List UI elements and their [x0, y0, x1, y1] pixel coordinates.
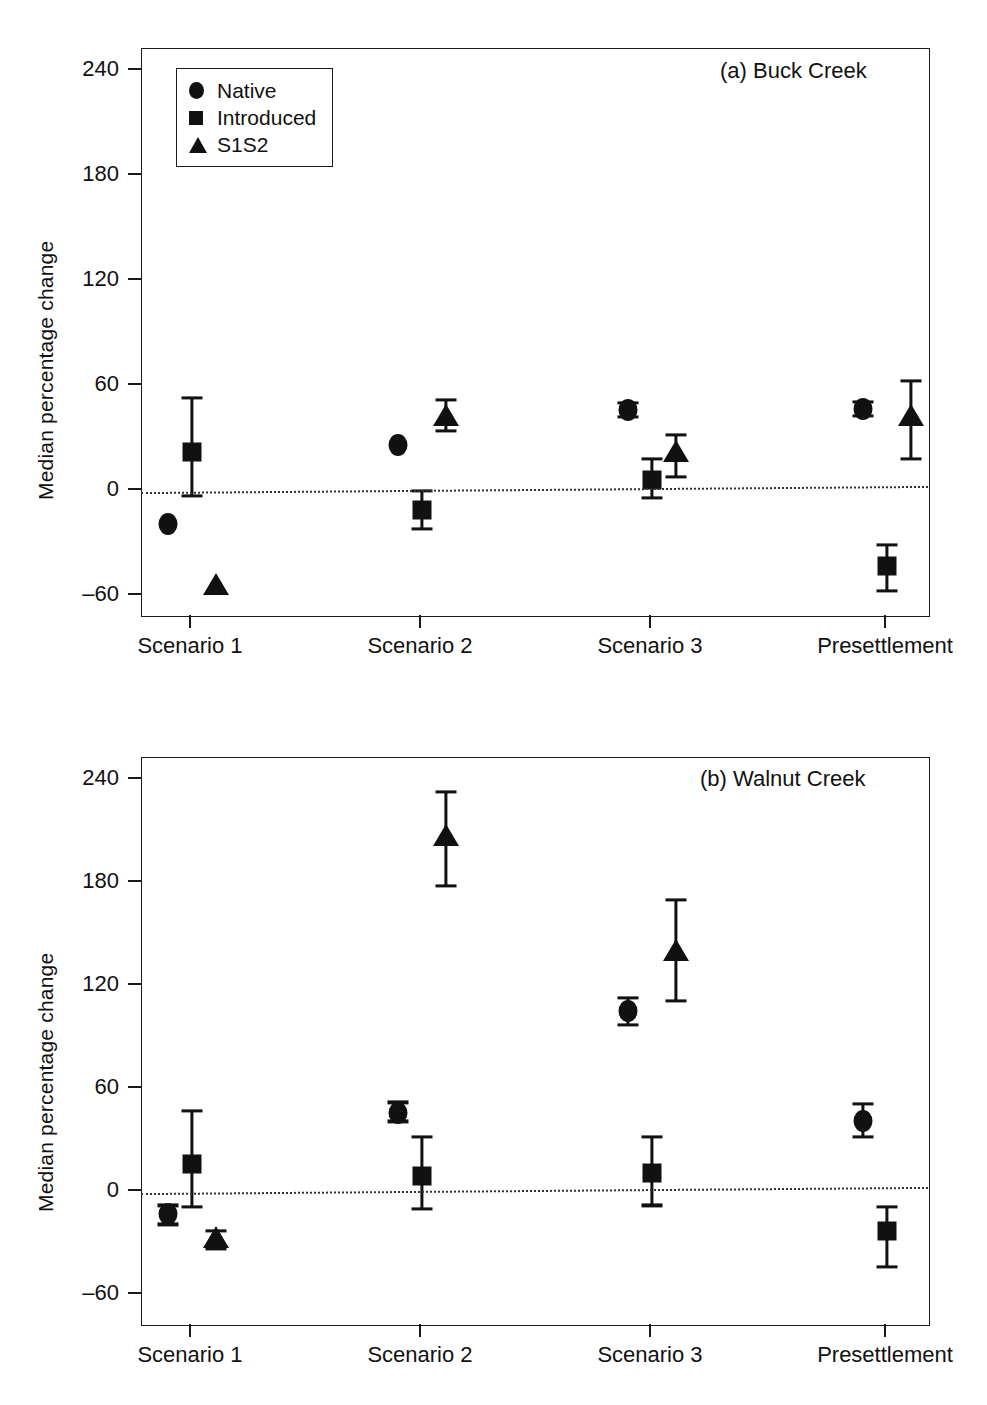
data-point-s1s2 — [203, 573, 229, 595]
x-tick-mark — [884, 1324, 886, 1337]
triangle-marker-icon — [189, 137, 207, 153]
error-bar-cap — [853, 1135, 874, 1138]
data-point-native — [159, 513, 178, 535]
error-bar-cap — [666, 475, 687, 478]
error-bar-cap — [436, 430, 457, 433]
data-point-native — [619, 1000, 638, 1022]
x-tick-label: Scenario 3 — [597, 633, 702, 659]
legend: NativeIntroducedS1S2 — [176, 68, 333, 167]
x-tick-label: Scenario 1 — [137, 1342, 242, 1368]
y-tick-mark — [128, 983, 141, 985]
error-bar-cap — [182, 1206, 203, 1209]
data-point-native — [389, 1102, 408, 1124]
x-tick-label: Scenario 2 — [367, 633, 472, 659]
x-tick-label: Presettlement — [817, 1342, 953, 1368]
legend-label: Native — [217, 79, 277, 103]
error-bar-cap — [642, 458, 663, 461]
x-tick-mark — [189, 1324, 191, 1337]
data-point-introduced — [413, 1167, 432, 1186]
y-tick-mark — [128, 383, 141, 385]
data-point-introduced — [643, 471, 662, 490]
y-tick-mark — [128, 1292, 141, 1294]
error-bar-cap — [436, 790, 457, 793]
panel-tag-a: (a) Buck Creek — [720, 58, 867, 84]
error-bar-cap — [182, 1109, 203, 1112]
data-point-introduced — [878, 557, 897, 576]
error-bar-cap — [853, 1103, 874, 1106]
legend-label: S1S2 — [217, 133, 268, 157]
y-tick-label: 240 — [82, 56, 119, 82]
error-bar-cap — [666, 1000, 687, 1003]
data-point-native — [854, 1110, 873, 1132]
data-point-s1s2 — [898, 403, 924, 425]
y-tick-mark — [128, 1086, 141, 1088]
panel-walnut-creek: Median percentage change 240180120600–60… — [0, 700, 987, 1405]
error-bar-cap — [618, 996, 639, 999]
y-tick-label: 180 — [82, 868, 119, 894]
panel-tag-b: (b) Walnut Creek — [700, 766, 865, 792]
error-bar-cap — [182, 494, 203, 497]
data-point-introduced — [183, 443, 202, 462]
legend-label: Introduced — [217, 106, 316, 130]
circle-marker-icon — [189, 82, 204, 99]
error-bar-cap — [901, 379, 922, 382]
y-tick-mark — [128, 173, 141, 175]
square-marker-icon — [189, 111, 203, 125]
y-tick-label: –60 — [82, 581, 119, 607]
y-tick-mark — [128, 593, 141, 595]
error-bar-cap — [412, 1135, 433, 1138]
data-point-s1s2 — [663, 939, 689, 961]
error-bar-cap — [877, 589, 898, 592]
x-tick-mark — [419, 615, 421, 628]
data-point-s1s2 — [663, 440, 689, 462]
x-tick-label: Scenario 3 — [597, 1342, 702, 1368]
error-bar-cap — [642, 1204, 663, 1207]
y-tick-label: 60 — [95, 371, 119, 397]
y-tick-mark — [128, 1189, 141, 1191]
plot-frame-b — [141, 757, 930, 1326]
legend-glyph — [189, 111, 215, 125]
y-tick-mark — [128, 777, 141, 779]
y-tick-label: 0 — [107, 476, 119, 502]
y-tick-mark — [128, 68, 141, 70]
error-bar-cap — [877, 543, 898, 546]
data-point-introduced — [413, 501, 432, 520]
data-point-introduced — [643, 1163, 662, 1182]
data-point-s1s2 — [433, 824, 459, 846]
x-tick-mark — [189, 615, 191, 628]
data-point-native — [389, 434, 408, 456]
error-bar-cap — [666, 898, 687, 901]
data-point-native — [619, 399, 638, 421]
error-bar-cap — [412, 528, 433, 531]
panel-buck-creek: Median percentage change 240180120600–60… — [0, 0, 987, 700]
error-bar-cap — [642, 1135, 663, 1138]
error-bar-cap — [877, 1266, 898, 1269]
y-axis-ticks-b: 240180120600–60 — [0, 700, 141, 1405]
x-tick-mark — [419, 1324, 421, 1337]
error-bar-cap — [182, 396, 203, 399]
y-tick-mark — [128, 880, 141, 882]
data-point-introduced — [878, 1222, 897, 1241]
y-tick-mark — [128, 488, 141, 490]
y-tick-label: 60 — [95, 1074, 119, 1100]
y-axis-ticks-a: 240180120600–60 — [0, 0, 141, 700]
legend-glyph — [189, 82, 215, 99]
y-tick-label: –60 — [82, 1280, 119, 1306]
x-tick-mark — [884, 615, 886, 628]
legend-item-introduced: Introduced — [189, 104, 316, 131]
y-tick-label: 120 — [82, 971, 119, 997]
x-tick-label: Presettlement — [817, 633, 953, 659]
error-bar-cap — [901, 458, 922, 461]
data-point-s1s2 — [433, 403, 459, 425]
error-bar-cap — [436, 398, 457, 401]
data-point-native — [854, 398, 873, 420]
x-tick-mark — [649, 615, 651, 628]
legend-item-native: Native — [189, 77, 316, 104]
error-bar-cap — [436, 885, 457, 888]
x-tick-mark — [649, 1324, 651, 1337]
data-point-introduced — [183, 1155, 202, 1174]
data-point-s1s2 — [203, 1226, 229, 1248]
legend-item-s1s2: S1S2 — [189, 131, 316, 158]
error-bar-cap — [412, 1207, 433, 1210]
data-point-native — [159, 1203, 178, 1225]
